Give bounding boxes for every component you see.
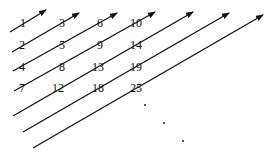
number-label: 1	[20, 17, 26, 29]
number-label: 7	[19, 82, 25, 94]
diagonal-arrow-1	[10, 10, 46, 32]
number-label: 25	[130, 82, 142, 94]
number-label: 18	[92, 82, 104, 94]
number-label: 3	[59, 17, 65, 29]
number-label: 9	[97, 39, 103, 51]
number-label: 6	[97, 17, 103, 29]
number-label: 8	[59, 61, 65, 73]
diagonal-arrow-7	[33, 15, 263, 148]
diagonal-arrow-6	[23, 13, 229, 132]
number-label: 12	[52, 82, 64, 94]
number-label: 19	[130, 61, 142, 73]
ellipsis-dot	[144, 104, 146, 106]
ellipsis-dot	[163, 122, 165, 124]
ellipsis-dot	[182, 140, 184, 142]
number-label: 14	[130, 39, 142, 51]
number-label: 4	[19, 61, 25, 73]
cantor-diagonal-diagram: 13610259144813197121825	[0, 0, 271, 160]
number-label: 10	[130, 17, 142, 29]
number-label: 5	[59, 39, 65, 51]
number-label: 2	[19, 39, 25, 51]
number-label: 13	[92, 61, 104, 73]
